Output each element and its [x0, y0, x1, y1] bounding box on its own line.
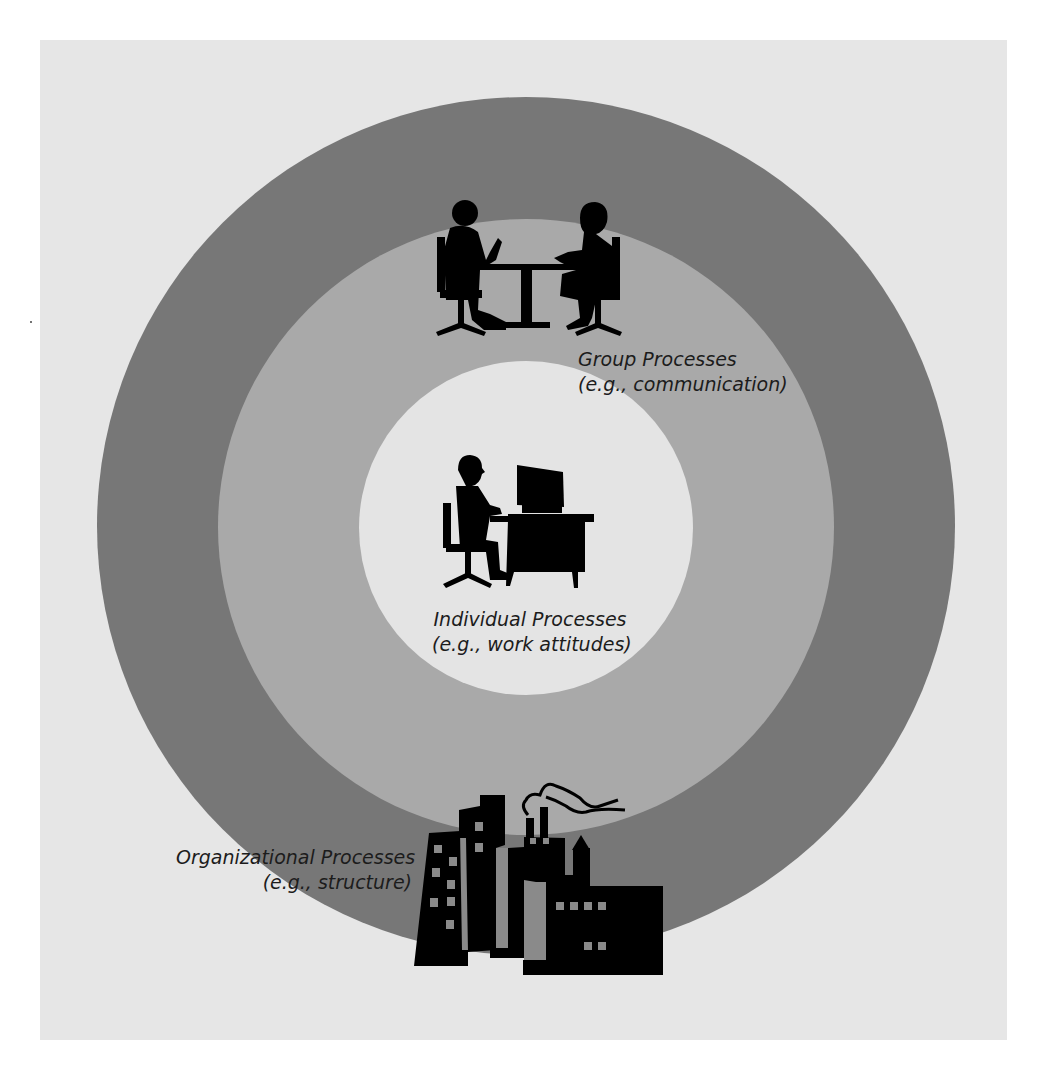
- individual-processes-title: Individual Processes: [432, 607, 628, 632]
- individual-processes-example: (e.g., work attitudes): [432, 632, 628, 657]
- individual-processes-label: Individual Processes (e.g., work attitud…: [432, 607, 628, 657]
- concentric-diagram: [0, 0, 1041, 1065]
- group-processes-example: (e.g., communication): [578, 372, 788, 397]
- organizational-processes-example: (e.g., structure): [176, 870, 412, 895]
- group-processes-title: Group Processes: [578, 347, 788, 372]
- organizational-processes-title: Organizational Processes: [176, 845, 412, 870]
- organizational-processes-label: Organizational Processes (e.g., structur…: [176, 845, 412, 895]
- group-processes-label: Group Processes (e.g., communication): [578, 347, 788, 397]
